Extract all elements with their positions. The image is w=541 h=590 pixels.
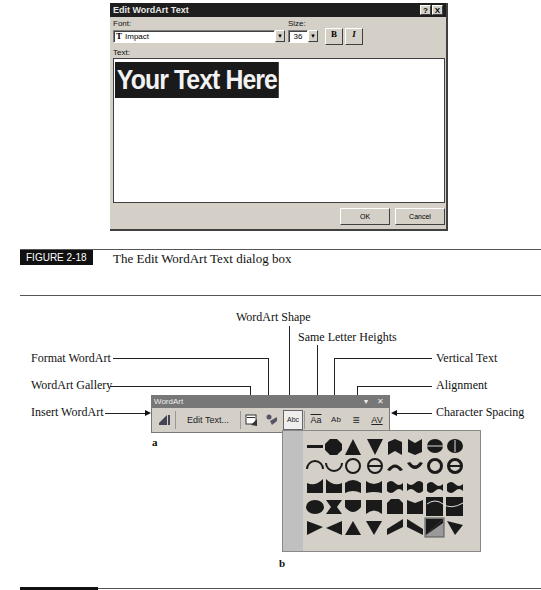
leader-vertical-text [334,358,432,359]
font-dropdown-arrow[interactable]: ▼ [275,30,285,42]
toolbar-title: WordArt [154,397,183,406]
font-select[interactable]: T Impact [113,30,275,43]
format-wordart-icon [265,413,279,427]
size-dropdown-arrow[interactable]: ▼ [308,30,318,42]
caption-rule-top [20,249,541,250]
selected-text: Your Text Here [115,62,279,98]
leader-wordart-gallery [110,386,250,387]
wordart-toolbar: WordArt ▾ ✕ Edit Text... Abc Aa Ab ≡ AV [151,395,390,433]
dialog-title: Edit WordArt Text [113,5,189,15]
font-value: Impact [125,31,149,42]
leader-character-spacing [397,413,432,414]
italic-button[interactable]: I [345,28,363,45]
callout-vertical-text: Vertical Text [436,351,497,366]
alignment-button[interactable]: ≡ [347,410,365,430]
callout-character-spacing: Character Spacing [436,405,524,420]
toolbar-separator [240,411,241,429]
wordart-gallery-icon [245,413,259,427]
callout-insert-wordart: Insert WordArt [31,405,103,420]
leader-insert-wordart [105,413,145,414]
bottom-rule [98,588,541,589]
toolbar-close-icon[interactable]: ✕ [377,396,384,408]
same-letter-heights-button[interactable]: Aa [307,410,325,430]
sublabel-a: a [152,436,158,448]
insert-wordart-icon [157,413,171,427]
dialog-title-bar: Edit WordArt Text [110,3,446,17]
gallery-strip [283,431,303,551]
caption-rule-bottom [20,295,541,296]
help-button[interactable]: ? [420,5,431,15]
leader-alignment [357,386,432,387]
text-input[interactable]: Your Text Here [113,58,445,203]
figure-caption: The Edit WordArt Text dialog box [113,251,291,267]
text-label: Text: [113,48,130,57]
vertical-text-button[interactable]: Ab [327,410,345,430]
close-button[interactable]: X [432,5,443,15]
leader-same-letter-heights [317,345,318,401]
wordart-shape-gallery [282,430,481,552]
callout-format-wordart: Format WordArt [31,351,111,366]
shape-grid[interactable] [305,437,481,549]
size-select[interactable]: 36 [288,30,308,43]
leader-format-wordart [113,358,268,359]
arrow-icon [391,410,397,416]
cancel-button[interactable]: Cancel [395,208,445,225]
callout-wordart-shape: WordArt Shape [236,310,311,325]
figure-label: FIGURE 2-18 [20,250,93,265]
leader-wordart-shape [289,326,290,402]
callout-same-letter-heights: Same Letter Heights [298,330,397,345]
character-spacing-button[interactable]: AV [367,410,387,430]
callout-alignment: Alignment [436,378,487,393]
toolbar-options-icon[interactable]: ▾ [364,396,368,408]
insert-wordart-button[interactable] [155,410,173,430]
format-wordart-button[interactable] [263,410,281,430]
font-label: Font: [113,19,131,28]
toolbar-separator [304,411,305,429]
bold-button[interactable]: B [325,28,343,45]
size-label: Size: [288,19,306,28]
toolbar-title-bar[interactable]: WordArt [152,396,389,408]
truetype-icon: T [116,31,122,42]
wordart-shape-button[interactable]: Abc [283,410,303,430]
callout-wordart-gallery: WordArt Gallery [31,378,112,393]
edit-wordart-text-dialog: Edit WordArt Text ? X Font: T Impact ▼ S… [110,3,448,231]
sublabel-b: b [279,557,285,569]
edit-text-button[interactable]: Edit Text... [178,410,238,430]
wordart-gallery-button[interactable] [243,410,261,430]
toolbar-separator [175,411,176,429]
ok-button[interactable]: OK [340,208,390,225]
